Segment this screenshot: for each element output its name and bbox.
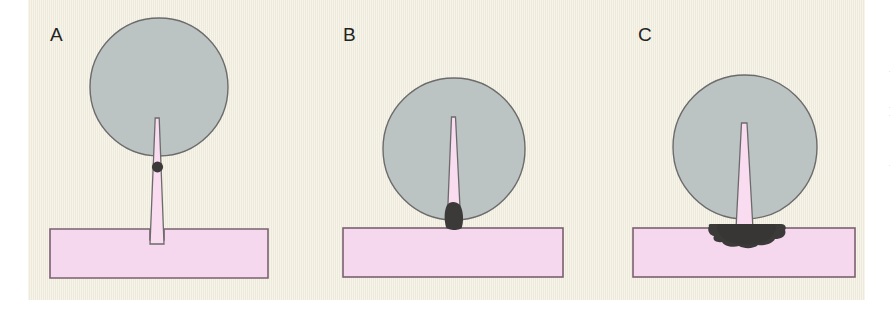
margin-mark-1: · bbox=[888, 68, 891, 75]
margin-mark-2: · bbox=[888, 104, 891, 111]
figure-root: A B C · bbox=[0, 0, 893, 321]
margin-mark-3: · bbox=[888, 112, 891, 119]
margin-mark-4: · bbox=[888, 162, 891, 169]
panel-c-graphic bbox=[0, 0, 893, 300]
